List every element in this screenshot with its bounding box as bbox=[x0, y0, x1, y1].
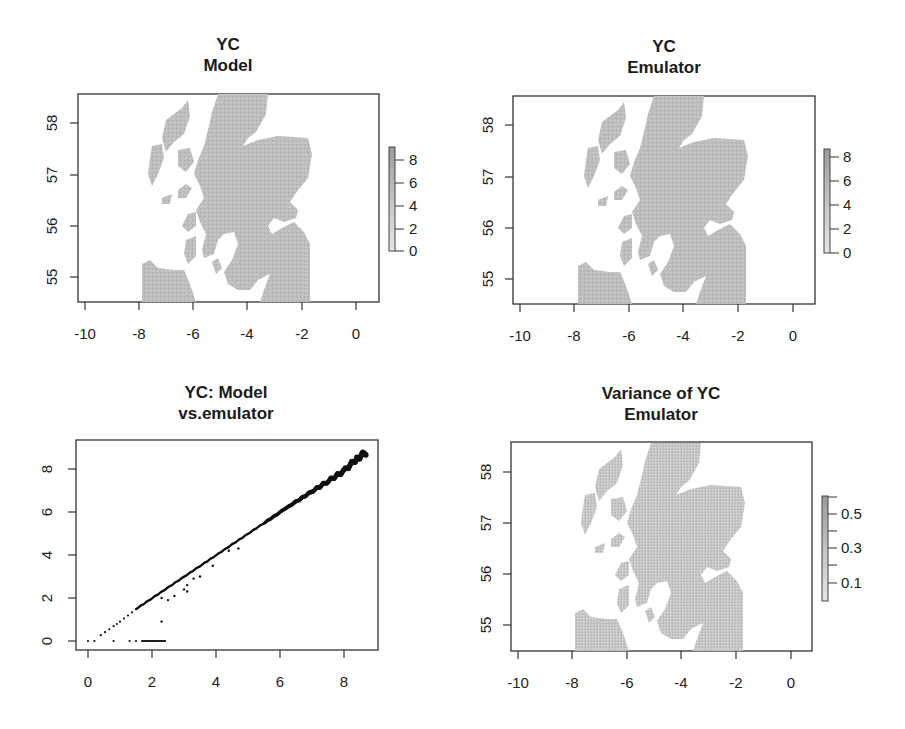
svg-text:-10: -10 bbox=[509, 327, 531, 344]
svg-text:0.3: 0.3 bbox=[841, 539, 862, 556]
colorbar: 8 6 4 2 0 bbox=[824, 148, 851, 261]
x-axis-labels: -10 -8 -6 -4 -2 0 bbox=[74, 325, 360, 342]
svg-text:-6: -6 bbox=[620, 674, 633, 691]
svg-text:-4: -4 bbox=[240, 325, 253, 342]
svg-text:-8: -8 bbox=[567, 327, 580, 344]
svg-text:0.1: 0.1 bbox=[841, 574, 862, 591]
svg-text:0: 0 bbox=[38, 637, 55, 645]
svg-text:2: 2 bbox=[38, 594, 55, 602]
svg-text:-10: -10 bbox=[74, 325, 96, 342]
map-panel-yc-model: -10 -8 -6 -4 -2 0 58 57 56 55 bbox=[43, 94, 417, 342]
svg-text:56: 56 bbox=[479, 220, 496, 237]
y-axis-labels: 58 57 56 55 bbox=[479, 117, 496, 288]
svg-text:8: 8 bbox=[38, 465, 55, 473]
x-axis-labels: -10 -8 -6 -4 -2 0 bbox=[509, 327, 797, 344]
svg-text:0.5: 0.5 bbox=[841, 505, 862, 522]
y-axis-ticks bbox=[505, 125, 513, 279]
scatter-panel-model-vs-emulator: 0 2 4 6 8 8 6 4 2 0 bbox=[38, 440, 378, 690]
svg-text:57: 57 bbox=[43, 167, 60, 184]
figure: YC Model YC Emulator YC: Model vs.emulat… bbox=[0, 0, 905, 729]
svg-text:0: 0 bbox=[352, 325, 360, 342]
svg-text:-4: -4 bbox=[674, 674, 687, 691]
svg-text:-10: -10 bbox=[507, 674, 529, 691]
colorbar: 0.5 0.3 0.1 bbox=[822, 496, 862, 601]
y-axis-labels: 58 57 56 55 bbox=[43, 115, 60, 286]
x-axis-ticks bbox=[518, 651, 791, 659]
svg-text:55: 55 bbox=[479, 271, 496, 288]
svg-text:8: 8 bbox=[843, 148, 851, 165]
svg-text:-8: -8 bbox=[565, 674, 578, 691]
svg-text:56: 56 bbox=[477, 566, 494, 583]
svg-text:2: 2 bbox=[843, 220, 851, 237]
svg-text:58: 58 bbox=[477, 464, 494, 481]
x-axis-ticks bbox=[88, 650, 344, 658]
svg-text:57: 57 bbox=[477, 515, 494, 532]
colorbar: 8 6 4 2 0 bbox=[389, 147, 417, 259]
svg-text:-2: -2 bbox=[731, 327, 744, 344]
svg-text:0: 0 bbox=[409, 242, 417, 259]
svg-text:0: 0 bbox=[789, 327, 797, 344]
y-axis-labels: 58 57 56 55 bbox=[477, 464, 494, 634]
x-axis-labels: 0 2 4 6 8 bbox=[84, 673, 348, 690]
svg-text:2: 2 bbox=[148, 673, 156, 690]
svg-text:56: 56 bbox=[43, 218, 60, 235]
x-axis-ticks bbox=[85, 302, 356, 310]
svg-text:0: 0 bbox=[787, 674, 795, 691]
svg-text:4: 4 bbox=[843, 196, 851, 213]
svg-text:6: 6 bbox=[38, 508, 55, 516]
svg-text:2: 2 bbox=[409, 220, 417, 237]
svg-text:0: 0 bbox=[84, 673, 92, 690]
svg-text:57: 57 bbox=[479, 169, 496, 186]
x-axis-labels: -10 -8 -6 -4 -2 0 bbox=[507, 674, 795, 691]
svg-text:8: 8 bbox=[340, 673, 348, 690]
plot-frame bbox=[76, 440, 378, 650]
map-panel-yc-emulator: -10 -8 -6 -4 -2 0 58 57 56 55 bbox=[479, 96, 851, 344]
svg-text:-6: -6 bbox=[622, 327, 635, 344]
svg-text:58: 58 bbox=[43, 115, 60, 132]
svg-text:4: 4 bbox=[409, 197, 417, 214]
svg-text:0: 0 bbox=[843, 244, 851, 261]
map-panel-yc-variance: -10 -8 -6 -4 -2 0 58 57 56 55 bbox=[477, 442, 862, 691]
svg-text:55: 55 bbox=[43, 269, 60, 286]
y-axis-ticks bbox=[503, 472, 511, 625]
y-axis-labels: 8 6 4 2 0 bbox=[38, 465, 55, 645]
svg-text:-6: -6 bbox=[186, 325, 199, 342]
y-axis-ticks bbox=[68, 469, 76, 641]
x-axis-ticks bbox=[520, 304, 793, 312]
svg-text:4: 4 bbox=[212, 673, 220, 690]
svg-text:4: 4 bbox=[38, 551, 55, 559]
svg-text:58: 58 bbox=[479, 117, 496, 134]
svg-text:-2: -2 bbox=[295, 325, 308, 342]
svg-text:-8: -8 bbox=[132, 325, 145, 342]
svg-text:-4: -4 bbox=[676, 327, 689, 344]
svg-text:8: 8 bbox=[409, 151, 417, 168]
svg-text:-2: -2 bbox=[729, 674, 742, 691]
svg-text:6: 6 bbox=[843, 172, 851, 189]
y-axis-ticks bbox=[70, 123, 78, 277]
svg-text:6: 6 bbox=[409, 174, 417, 191]
svg-text:55: 55 bbox=[477, 617, 494, 634]
svg-text:6: 6 bbox=[276, 673, 284, 690]
